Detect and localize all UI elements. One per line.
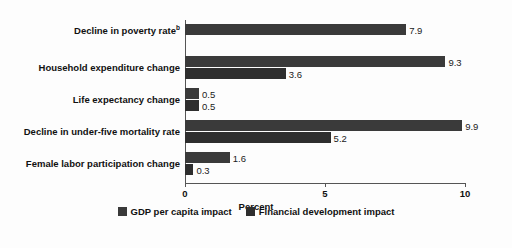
legend-swatch-icon bbox=[246, 207, 255, 216]
x-tick-label-0: 0 bbox=[182, 188, 187, 199]
bar-value-financial-female-labor-participation-change: 0.3 bbox=[193, 164, 209, 175]
plot-area: Decline in poverty rateb 7.9 Household e… bbox=[185, 20, 465, 180]
x-tick-10 bbox=[465, 183, 466, 187]
x-tick-0 bbox=[185, 183, 186, 187]
chart-legend: GDP per capita impact Financial developm… bbox=[0, 206, 512, 217]
bar-value-gdp-female-labor-participation-change: 1.6 bbox=[230, 152, 246, 163]
bar-gdp-decline-in-under-five-mortality-rate bbox=[185, 120, 462, 131]
category-label-text: Decline in poverty rate bbox=[74, 25, 176, 36]
legend-label-financial-development-impact: Financial development impact bbox=[259, 206, 395, 217]
bar-group-life-expectancy-change: Life expectancy change 0.5 0.5 bbox=[185, 88, 465, 112]
bar-financial-life-expectancy-change bbox=[185, 100, 199, 111]
category-label-text: Life expectancy change bbox=[73, 94, 180, 105]
bar-row: 1.6 bbox=[185, 152, 465, 163]
bar-row: 0.5 bbox=[185, 100, 465, 111]
bar-row: 9.9 bbox=[185, 120, 465, 131]
category-label-household-expenditure-change: Household expenditure change bbox=[0, 62, 185, 73]
bar-value-gdp-life-expectancy-change: 0.5 bbox=[199, 88, 215, 99]
chart-figure: Decline in poverty rateb 7.9 Household e… bbox=[0, 0, 512, 248]
legend-item-gdp-per-capita-impact[interactable]: GDP per capita impact bbox=[118, 206, 232, 217]
bar-financial-decline-in-under-five-mortality-rate bbox=[185, 132, 331, 143]
bar-financial-female-labor-participation-change bbox=[185, 164, 193, 175]
legend-label-gdp-per-capita-impact: GDP per capita impact bbox=[131, 206, 232, 217]
bar-value-financial-life-expectancy-change: 0.5 bbox=[199, 100, 215, 111]
bar-financial-household-expenditure-change bbox=[185, 68, 286, 79]
bar-gdp-household-expenditure-change bbox=[185, 56, 445, 67]
bar-value-financial-household-expenditure-change: 3.6 bbox=[286, 68, 302, 79]
bar-row: 0.5 bbox=[185, 88, 465, 99]
bar-row: 9.3 bbox=[185, 56, 465, 67]
bar-gdp-female-labor-participation-change bbox=[185, 152, 230, 163]
bar-group-household-expenditure-change: Household expenditure change 9.3 3.6 bbox=[185, 56, 465, 80]
x-tick-5 bbox=[325, 183, 326, 187]
category-label-text: Female labor participation change bbox=[26, 158, 180, 169]
bar-value-financial-decline-in-under-five-mortality-rate: 5.2 bbox=[331, 132, 347, 143]
legend-swatch-icon bbox=[118, 207, 127, 216]
bar-row: 5.2 bbox=[185, 132, 465, 143]
bar-group-female-labor-participation-change: Female labor participation change 1.6 0.… bbox=[185, 152, 465, 176]
legend-item-financial-development-impact[interactable]: Financial development impact bbox=[246, 206, 395, 217]
bar-group-decline-in-poverty-rate: Decline in poverty rateb 7.9 bbox=[185, 24, 465, 36]
bar-row: 0.3 bbox=[185, 164, 465, 175]
category-label-decline-in-under-five-mortality-rate: Decline in under-five mortality rate bbox=[0, 126, 185, 137]
x-tick-label-10: 10 bbox=[460, 188, 471, 199]
category-label-text: Household expenditure change bbox=[39, 62, 180, 73]
category-label-female-labor-participation-change: Female labor participation change bbox=[0, 158, 185, 169]
bar-row: 7.9 bbox=[185, 24, 465, 35]
category-label-life-expectancy-change: Life expectancy change bbox=[0, 94, 185, 105]
x-tick-label-5: 5 bbox=[322, 188, 327, 199]
bar-gdp-decline-in-poverty-rate bbox=[185, 24, 406, 35]
bar-value-gdp-decline-in-poverty-rate: 7.9 bbox=[406, 24, 422, 35]
bar-group-decline-in-under-five-mortality-rate: Decline in under-five mortality rate 9.9… bbox=[185, 120, 465, 144]
bar-value-gdp-decline-in-under-five-mortality-rate: 9.9 bbox=[462, 120, 478, 131]
category-label-decline-in-poverty-rate: Decline in poverty rateb bbox=[0, 24, 185, 36]
bar-value-gdp-household-expenditure-change: 9.3 bbox=[445, 56, 461, 67]
bar-gdp-life-expectancy-change bbox=[185, 88, 199, 99]
bar-row: 3.6 bbox=[185, 68, 465, 79]
category-footnote-marker: b bbox=[176, 24, 180, 31]
category-label-text: Decline in under-five mortality rate bbox=[24, 126, 180, 137]
